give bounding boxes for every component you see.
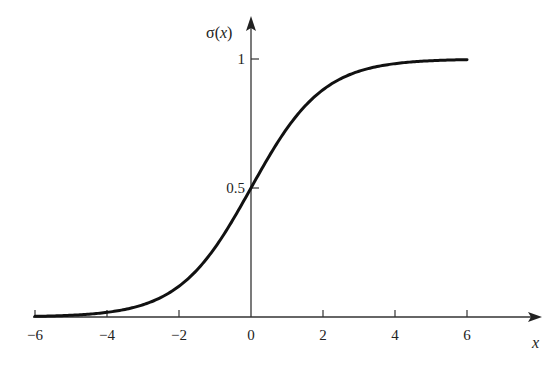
y-tick-label: 0.5 <box>226 180 245 196</box>
x-tick-label: −2 <box>171 327 187 343</box>
y-axis: 0.51 <box>226 16 259 317</box>
x-tick-label: −4 <box>99 327 115 343</box>
x-tick-label: −6 <box>27 327 43 343</box>
y-axis-label: σ(x) <box>206 24 232 42</box>
x-tick-label: 6 <box>463 327 471 343</box>
x-tick-label: 0 <box>247 327 255 343</box>
x-axis-label: x <box>531 334 539 351</box>
x-tick-label: 4 <box>391 327 399 343</box>
y-tick-label: 1 <box>238 51 246 67</box>
x-tick-label: 2 <box>319 327 327 343</box>
sigmoid-chart: −6−4−20246 0.51 x σ(x) <box>0 0 558 370</box>
x-axis: −6−4−20246 <box>27 310 542 343</box>
